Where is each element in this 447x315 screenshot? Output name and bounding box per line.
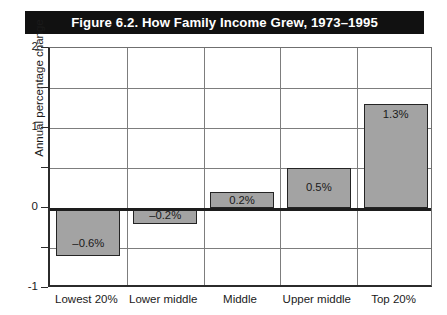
y-tick-label-1: 1	[0, 121, 38, 133]
category-label-lowest-20: Lowest 20%	[48, 293, 125, 305]
category-separator-2	[204, 48, 205, 285]
category-label-lower-middle: Lower middle	[125, 293, 202, 305]
y-tick-label-0: 0	[0, 201, 38, 213]
y-tick-0p5	[41, 167, 48, 168]
category-separator-4	[357, 48, 358, 285]
figure-title-bar: Figure 6.2. How Family Income Grew, 1973…	[25, 11, 424, 34]
y-tick-1p5	[41, 87, 48, 88]
zero-line	[50, 208, 431, 211]
y-tick-label-neg1: -1	[0, 281, 38, 293]
category-separator-1	[127, 48, 128, 285]
y-tick-neg0p5	[41, 247, 48, 248]
bar-label-top-20: 1.3%	[364, 108, 428, 120]
bar-label-upper-middle: 0.5%	[287, 181, 351, 193]
y-tick-1	[41, 127, 48, 128]
y-tick-label-2: 2	[0, 41, 38, 53]
bar-label-middle: 0.2%	[210, 194, 274, 206]
category-separator-3	[280, 48, 281, 285]
plot-area: –0.6% –0.2% 0.2% 0.5% 1.3%	[48, 47, 432, 287]
y-tick-2	[41, 47, 48, 48]
bar-label-lower-middle: –0.2%	[133, 209, 197, 221]
category-label-top-20: Top 20%	[355, 293, 432, 305]
figure-title: Figure 6.2. How Family Income Grew, 1973…	[71, 15, 378, 30]
y-tick-neg1	[41, 287, 48, 288]
y-axis-title: Annual percentage change	[33, 0, 45, 183]
category-label-middle: Middle	[202, 293, 279, 305]
y-tick-0	[41, 207, 48, 208]
bar-label-lowest-20: –0.6%	[56, 237, 120, 249]
category-label-upper-middle: Upper middle	[278, 293, 355, 305]
gridline-1p5	[50, 88, 431, 89]
